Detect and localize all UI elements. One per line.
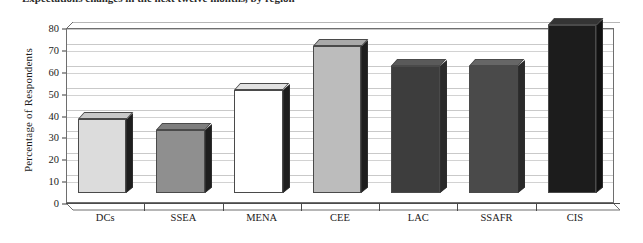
bar-mena [234,83,283,193]
bar-top-face [234,83,289,90]
y-axis-title: Percentage of Respondents [22,20,34,200]
bar-front-face [391,66,440,193]
figure-caption-text: Expectations changes in the next twelve … [22,0,295,4]
bar-side-face [205,124,212,193]
bar-front-face [548,25,597,193]
bar-side-face [440,60,447,193]
bar-front-face [469,66,518,193]
x-label-lac: LAC [408,212,429,223]
x-tick-3 [301,203,302,211]
bar-front-face [78,119,127,193]
bar-top-face [156,123,211,130]
bar-side-face [283,84,290,193]
x-label-ssafr: SSAFR [481,212,513,223]
x-tick-1 [144,203,145,211]
chart-figure: Expectations changes in the next twelve … [0,0,643,243]
y-axis-ticks: 01020304050607080 [40,22,68,212]
x-tick-6 [536,203,537,211]
x-label-mena: MENA [246,212,277,223]
figure-caption: Expectations changes in the next twelve … [0,0,643,7]
bar-lac [391,59,440,193]
bar-front-face [313,46,362,193]
x-tick-5 [457,203,458,211]
bar-ssafr [469,59,518,193]
bar-side-face [596,19,603,193]
bar-side-face [518,60,525,193]
bar-front-face [156,130,205,193]
bar-top-face [78,112,133,119]
bar-dcs [78,112,127,193]
bar-top-face [313,39,368,46]
bar-front-face [234,90,283,193]
bar-side-face [361,41,368,193]
x-axis-ticks [66,203,620,212]
x-label-cee: CEE [330,212,350,223]
bar-cis [548,18,597,193]
bar-top-face [469,59,524,66]
plot-area [66,22,620,203]
bar-side-face [126,113,133,193]
bar-cee [313,39,362,193]
bar-top-face [391,59,446,66]
x-label-dcs: DCs [96,212,115,223]
bar-top-face [548,18,603,25]
x-label-ssea: SSEA [171,212,197,223]
x-axis-labels: DCsSSEAMENACEELACSSAFRCIS [66,212,620,232]
x-tick-4 [379,203,380,211]
x-tick-2 [223,203,224,211]
bar-ssea [156,123,205,193]
x-label-cis: CIS [567,212,583,223]
bar-series [66,22,620,212]
